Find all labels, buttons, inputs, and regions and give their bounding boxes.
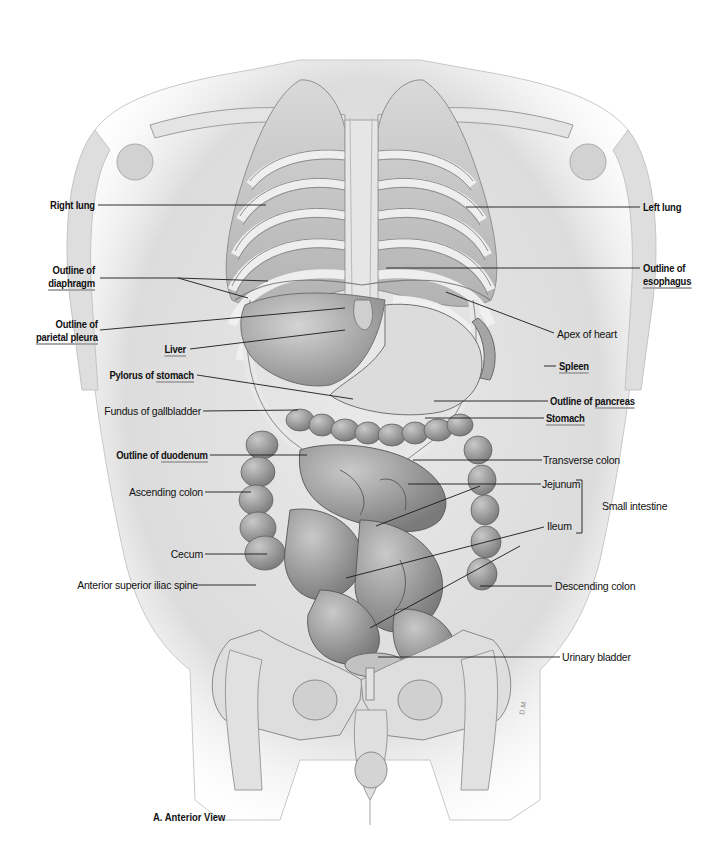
label-text: Fundus of gallbladder — [104, 405, 201, 417]
label-text: Jejunum — [542, 478, 580, 490]
label-pylorus-of-stomach: Pylorus of stomach — [110, 369, 194, 382]
label-small-intestine: Small intestine — [602, 500, 667, 513]
label-text: Urinary bladder — [562, 651, 631, 663]
torso-illustration: D.M — [0, 0, 723, 868]
label-text: Transverse colon — [543, 454, 620, 466]
label-left-lung: Left lung — [643, 201, 681, 214]
label-text-underlined: esophagus — [643, 275, 691, 289]
label-text: Ascending colon — [129, 486, 203, 498]
label-liver: Liver — [164, 343, 186, 356]
label-text: Left lung — [643, 201, 681, 213]
label-apex-of-heart: Apex of heart — [557, 328, 617, 341]
label-text: Outline of — [550, 395, 595, 407]
label-outline-of-diaphragm: Outline of diaphragm — [48, 264, 95, 290]
label-right-lung: Right lung — [50, 199, 95, 212]
label-text: Right lung — [50, 199, 95, 211]
label-text-underlined: Stomach — [546, 412, 585, 426]
label-text-underlined: Liver — [164, 343, 186, 357]
label-outline-of-duodenum: Outline of duodenum — [116, 449, 208, 462]
label-outline-of-parietal-pleura: Outline of parietal pleura — [36, 318, 98, 344]
label-spleen: Spleen — [559, 360, 589, 373]
label-text: Apex of heart — [557, 328, 617, 340]
label-descending-colon: Descending colon — [555, 580, 635, 593]
label-transverse-colon: Transverse colon — [543, 454, 620, 467]
label-ascending-colon: Ascending colon — [129, 486, 203, 499]
label-text: Outline of — [116, 449, 161, 461]
label-ileum: Ileum — [547, 520, 572, 533]
label-text-underlined: parietal pleura — [36, 331, 98, 345]
label-text-underlined: stomach — [156, 369, 194, 383]
label-text: Anterior superior iliac spine — [77, 579, 198, 591]
figure-caption: A. Anterior View — [153, 811, 225, 823]
label-text-underlined: diaphragm — [48, 277, 95, 291]
label-text: Cecum — [171, 548, 203, 560]
label-text-line1: Outline of — [643, 262, 691, 275]
anatomy-figure-anterior-view: D.M — [0, 0, 723, 868]
label-text: Small intestine — [602, 500, 667, 512]
label-text-line1: Outline of — [36, 318, 98, 331]
label-text: Ileum — [547, 520, 572, 532]
label-cecum: Cecum — [171, 548, 203, 561]
label-text-underlined: duodenum — [161, 449, 208, 463]
label-anterior-superior-iliac-spine: Anterior superior iliac spine — [77, 579, 198, 592]
label-text-underlined: Spleen — [559, 360, 589, 374]
label-jejunum: Jejunum — [542, 478, 580, 491]
label-text-line1: Outline of — [48, 264, 95, 277]
label-outline-of-esophagus: Outline of esophagus — [643, 262, 691, 288]
label-text: Pylorus of — [110, 369, 157, 381]
label-fundus-of-gallbladder: Fundus of gallbladder — [104, 405, 201, 418]
label-text: Descending colon — [555, 580, 635, 592]
label-text-underlined: pancreas — [595, 395, 635, 409]
label-urinary-bladder: Urinary bladder — [562, 651, 631, 664]
label-stomach: Stomach — [546, 412, 585, 425]
label-outline-of-pancreas: Outline of pancreas — [550, 395, 635, 408]
